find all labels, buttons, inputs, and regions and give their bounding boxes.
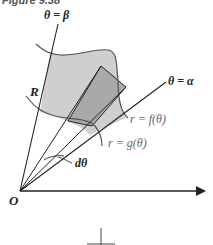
label-inner-curve: r = g(θ) [108, 136, 147, 151]
axis-arrowhead-icon [196, 186, 206, 196]
label-outer-curve: r = f(θ) [130, 112, 166, 127]
polar-region-diagram [0, 0, 213, 245]
label-theta-beta: θ = β [44, 8, 69, 23]
label-theta-alpha: θ = α [168, 74, 194, 89]
label-dtheta: dθ [75, 156, 87, 171]
label-origin: O [9, 193, 18, 209]
label-region-r: R [30, 84, 39, 100]
